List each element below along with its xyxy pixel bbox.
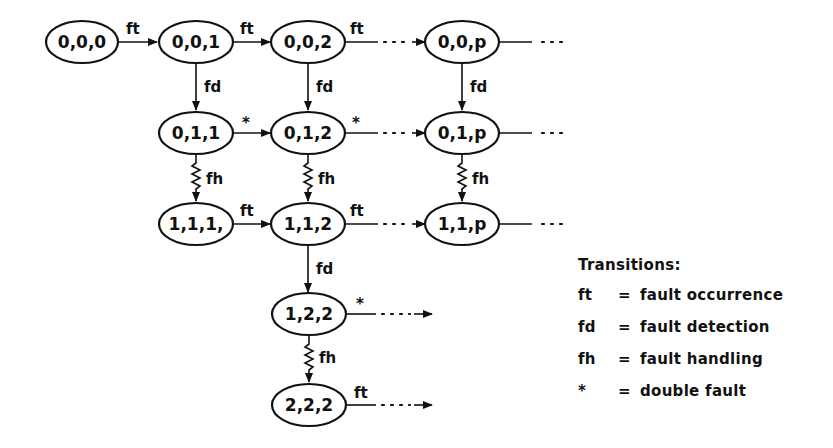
- legend-meaning: fault handling: [640, 350, 763, 368]
- legend-meaning: fault occurrence: [640, 286, 783, 304]
- edge-00p-01p-fd: fd: [462, 64, 487, 110]
- svg-text:1,2,2: 1,2,2: [285, 304, 333, 324]
- svg-text:ft: ft: [354, 384, 368, 402]
- state-node-1-2-2: 1,2,2: [272, 293, 346, 335]
- state-node-0-0-2: 0,0,2: [271, 21, 345, 63]
- state-node-1-1-1: 1,1,1,: [159, 203, 233, 245]
- svg-text:fh: fh: [472, 170, 489, 188]
- edge-01p-11p-fh: fh: [458, 155, 489, 201]
- state-node-0-0-0: 0,0,0: [46, 21, 118, 63]
- legend-equals: =: [618, 318, 640, 336]
- state-node-0-0-p: 0,0,p: [425, 21, 499, 63]
- svg-text:ft: ft: [350, 202, 364, 220]
- svg-text:*: *: [352, 114, 360, 132]
- svg-text:fh: fh: [206, 170, 223, 188]
- transitions-legend: Transitions: ft = fault occurrence fd = …: [578, 256, 783, 412]
- legend-item-fd: fd = fault detection: [578, 316, 783, 338]
- svg-text:fd: fd: [470, 78, 487, 96]
- legend-symbol: *: [578, 382, 618, 400]
- edge-012-01p-double: *: [345, 114, 425, 133]
- svg-text:1,1,1,: 1,1,1,: [169, 214, 224, 234]
- edge-122-222-fh: fh: [305, 336, 336, 382]
- state-node-1-1-p: 1,1,p: [425, 203, 499, 245]
- legend-meaning: double fault: [640, 382, 746, 400]
- state-node-0-1-2: 0,1,2: [271, 112, 345, 154]
- edge-111-112-ft: ft: [233, 202, 270, 224]
- svg-text:0,1,p: 0,1,p: [438, 123, 487, 143]
- state-node-0-1-1: 0,1,1: [159, 112, 233, 154]
- edge-012-112-fh: fh: [304, 155, 335, 201]
- edge-002-00p-ft: ft: [345, 20, 425, 42]
- svg-text:0,0,0: 0,0,0: [58, 32, 107, 52]
- legend-item-double-fault: * = double fault: [578, 380, 783, 402]
- svg-text:1,1,2: 1,1,2: [284, 214, 332, 234]
- svg-text:0,0,p: 0,0,p: [438, 32, 487, 52]
- edge-011-111-fh: fh: [192, 155, 223, 201]
- svg-text:0,0,2: 0,0,2: [284, 32, 332, 52]
- svg-text:0,1,1: 0,1,1: [172, 123, 220, 143]
- svg-text:fh: fh: [318, 170, 335, 188]
- legend-equals: =: [618, 382, 640, 400]
- svg-text:fd: fd: [316, 78, 333, 96]
- edge-002-012-fd: fd: [308, 64, 333, 110]
- legend-symbol: ft: [578, 286, 618, 304]
- svg-text:ft: ft: [240, 20, 254, 38]
- edge-001-011-fd: fd: [196, 64, 221, 110]
- legend-equals: =: [618, 350, 640, 368]
- legend-equals: =: [618, 286, 640, 304]
- state-node-1-1-2: 1,1,2: [271, 203, 345, 245]
- svg-text:0,1,2: 0,1,2: [284, 123, 332, 143]
- svg-text:ft: ft: [350, 20, 364, 38]
- svg-text:fd: fd: [204, 78, 221, 96]
- svg-text:fh: fh: [319, 349, 336, 367]
- edge-011-012-double: *: [232, 114, 270, 133]
- edge-001-002-ft: ft: [232, 20, 270, 42]
- edge-222-continue-ft: ft: [346, 384, 432, 405]
- edge-000-001-ft: ft: [118, 20, 157, 42]
- svg-text:*: *: [356, 295, 364, 313]
- edge-122-continue-double: *: [346, 295, 432, 314]
- legend-item-ft: ft = fault occurrence: [578, 284, 783, 306]
- state-node-2-2-2: 2,2,2: [272, 384, 346, 426]
- edge-112-122-fd: fd: [308, 246, 333, 292]
- svg-text:ft: ft: [126, 20, 140, 38]
- legend-symbol: fd: [578, 318, 618, 336]
- state-node-0-0-1: 0,0,1: [159, 21, 233, 63]
- svg-text:1,1,p: 1,1,p: [438, 214, 487, 234]
- svg-text:fd: fd: [316, 260, 333, 278]
- svg-text:0,0,1: 0,0,1: [172, 32, 220, 52]
- legend-meaning: fault detection: [640, 318, 770, 336]
- legend-title: Transitions:: [578, 256, 783, 274]
- legend-item-fh: fh = fault handling: [578, 348, 783, 370]
- state-node-0-1-p: 0,1,p: [425, 112, 499, 154]
- svg-text:*: *: [242, 114, 250, 132]
- svg-text:2,2,2: 2,2,2: [285, 395, 333, 415]
- edge-112-11p-ft: ft: [345, 202, 425, 224]
- svg-text:ft: ft: [240, 202, 254, 220]
- legend-symbol: fh: [578, 350, 618, 368]
